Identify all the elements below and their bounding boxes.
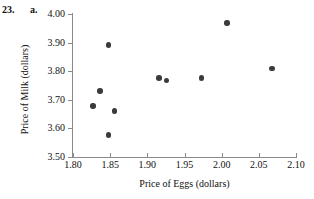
data-point — [106, 132, 112, 138]
x-axis-tick-label: 1.95 — [165, 160, 205, 170]
data-point — [224, 20, 230, 26]
data-point — [199, 75, 205, 81]
data-point — [106, 42, 112, 48]
x-axis-tick-label: 1.90 — [127, 160, 167, 170]
data-point — [156, 75, 162, 81]
y-axis-tick-label: 3.60 — [31, 123, 65, 133]
y-axis-tick-label: 3.70 — [31, 95, 65, 105]
y-axis-tick-label: 3.80 — [31, 66, 65, 76]
x-axis-title: Price of Eggs (dollars) — [73, 178, 296, 189]
x-axis-tick-label: 2.10 — [276, 160, 314, 170]
y-axis-tick-label: 4.00 — [31, 9, 65, 19]
data-point — [90, 103, 96, 109]
x-axis-tick-label: 1.80 — [53, 160, 93, 170]
data-point — [164, 78, 170, 84]
data-point — [269, 66, 275, 72]
x-axis-tick-label: 1.85 — [90, 160, 130, 170]
data-point-layer — [73, 14, 296, 157]
x-axis-tick-label: 2.05 — [239, 160, 279, 170]
x-axis-tick — [296, 153, 297, 158]
exercise-number: 23. — [2, 4, 15, 15]
y-axis-tick-label: 3.90 — [31, 38, 65, 48]
y-axis-title: Price of Milk (dollars) — [19, 35, 30, 145]
x-axis-tick-label: 2.00 — [202, 160, 242, 170]
scatter-plot-figure: 23. a. 3.503.603.703.803.904.00 1.801.85… — [0, 0, 314, 199]
data-point — [97, 88, 103, 94]
data-point — [112, 108, 118, 114]
